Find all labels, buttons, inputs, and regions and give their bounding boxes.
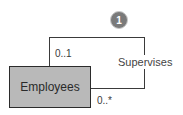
loop-line-top [49,37,145,38]
loop-line-left [49,37,50,66]
loop-line-bottom [91,88,145,89]
entity-name: Employees [20,80,79,94]
relationship-label: Supervises [118,55,172,69]
callout-number: 1 [116,15,122,26]
callout-badge: 1 [110,11,128,29]
entity-employees[interactable]: Employees [9,66,91,108]
cardinality-top: 0..1 [55,48,72,59]
cardinality-bottom: 0..* [97,95,112,106]
